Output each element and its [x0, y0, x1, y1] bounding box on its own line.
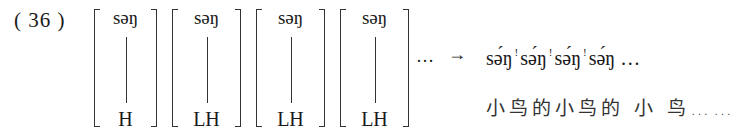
output-trailing-ellipsis: … [620, 47, 640, 69]
surface-output: sə́ŋ!sə́ŋ!sə́ŋ!sə́ŋ … [486, 46, 640, 70]
output-syllable: sə́ŋ [554, 47, 581, 69]
output-syllable: sə́ŋ [589, 47, 616, 69]
downstep-mark: ! [549, 46, 553, 58]
matrix-syllable: səŋ [172, 7, 241, 29]
matrix-syllable: səŋ [256, 7, 325, 29]
matrix-tone: LH [172, 108, 241, 131]
output-syllable: sə́ŋ [486, 47, 513, 69]
matrix-syllable: səŋ [340, 7, 409, 29]
right-bracket [403, 9, 409, 127]
feature-matrix-3: səŋ LH [256, 9, 325, 127]
output-syllable: sə́ŋ [520, 47, 547, 69]
feature-matrix-2: səŋ LH [172, 9, 241, 127]
example-number: ( 36 ) [14, 8, 66, 33]
association-line [207, 37, 208, 103]
matrix-tone: LH [256, 108, 325, 131]
downstep-mark: ! [583, 46, 587, 58]
right-bracket [151, 9, 157, 127]
chinese-gloss: 小鸟的小鸟的 小 鸟…… [486, 93, 736, 120]
feature-matrix-1: səŋ H [94, 9, 157, 127]
matrix-syllable: səŋ [94, 7, 157, 29]
continuation-ellipsis: … [416, 46, 436, 67]
right-arrow-icon: → [448, 44, 466, 65]
feature-matrix-4: səŋ LH [340, 9, 409, 127]
association-line [126, 37, 127, 103]
right-bracket [319, 9, 325, 127]
association-line [375, 37, 376, 103]
association-line [291, 37, 292, 103]
right-bracket [235, 9, 241, 127]
matrix-tone: LH [340, 108, 409, 131]
matrix-tone: H [94, 108, 157, 131]
downstep-mark: ! [515, 46, 519, 58]
